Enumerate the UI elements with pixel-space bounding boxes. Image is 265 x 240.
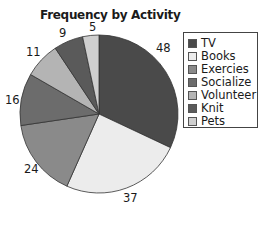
data-label-books: 37 <box>123 192 138 204</box>
swatch-icon <box>188 78 197 87</box>
swatch-icon <box>188 65 197 74</box>
swatch-icon <box>188 104 197 113</box>
legend: TV Books Exercies Socialize Volunteer Kn… <box>183 32 258 128</box>
data-label-volunteer: 11 <box>26 46 41 58</box>
swatch-icon <box>188 117 197 126</box>
data-label-tv: 48 <box>156 42 171 54</box>
swatch-icon <box>188 52 197 61</box>
swatch-icon <box>188 91 197 100</box>
legend-item-pets: Pets <box>188 115 225 128</box>
swatch-icon <box>188 39 197 48</box>
data-label-knit: 9 <box>59 27 66 39</box>
data-label-exercies: 24 <box>24 163 39 175</box>
data-label-socialize: 16 <box>5 94 20 106</box>
data-label-pets: 5 <box>89 21 96 33</box>
